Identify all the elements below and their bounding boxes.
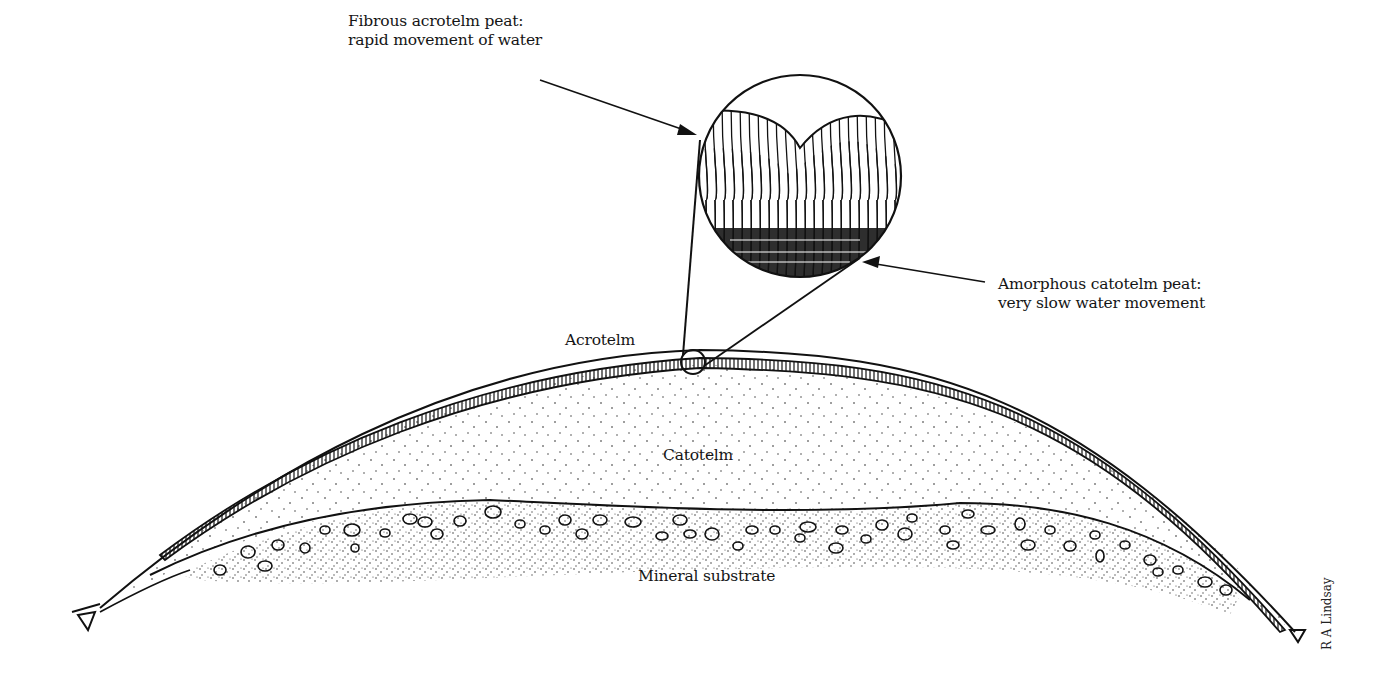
magnified-peat-sample [695, 75, 905, 330]
catotelm-callout-arrow [862, 256, 985, 282]
acrotelm-callout-line2: rapid movement of water [348, 31, 542, 50]
left-end-marker-icon [72, 604, 100, 630]
right-end-marker-icon [1290, 630, 1305, 642]
catotelm-label: Catotelm [663, 446, 733, 465]
acrotelm-label: Acrotelm [565, 331, 635, 350]
artist-credit: R A Lindsay [1320, 577, 1334, 650]
catotelm-callout-label: Amorphous catotelm peat: very slow water… [998, 275, 1205, 313]
catotelm-callout-line1: Amorphous catotelm peat: [998, 275, 1205, 294]
acrotelm-callout-label: Fibrous acrotelm peat: rapid movement of… [348, 12, 542, 50]
catotelm-layer [100, 365, 1295, 632]
catotelm-callout-line2: very slow water movement [998, 294, 1205, 313]
acrotelm-callout-arrow [540, 80, 697, 135]
mineral-substrate-label: Mineral substrate [638, 567, 775, 586]
acrotelm-callout-line1: Fibrous acrotelm peat: [348, 12, 542, 31]
